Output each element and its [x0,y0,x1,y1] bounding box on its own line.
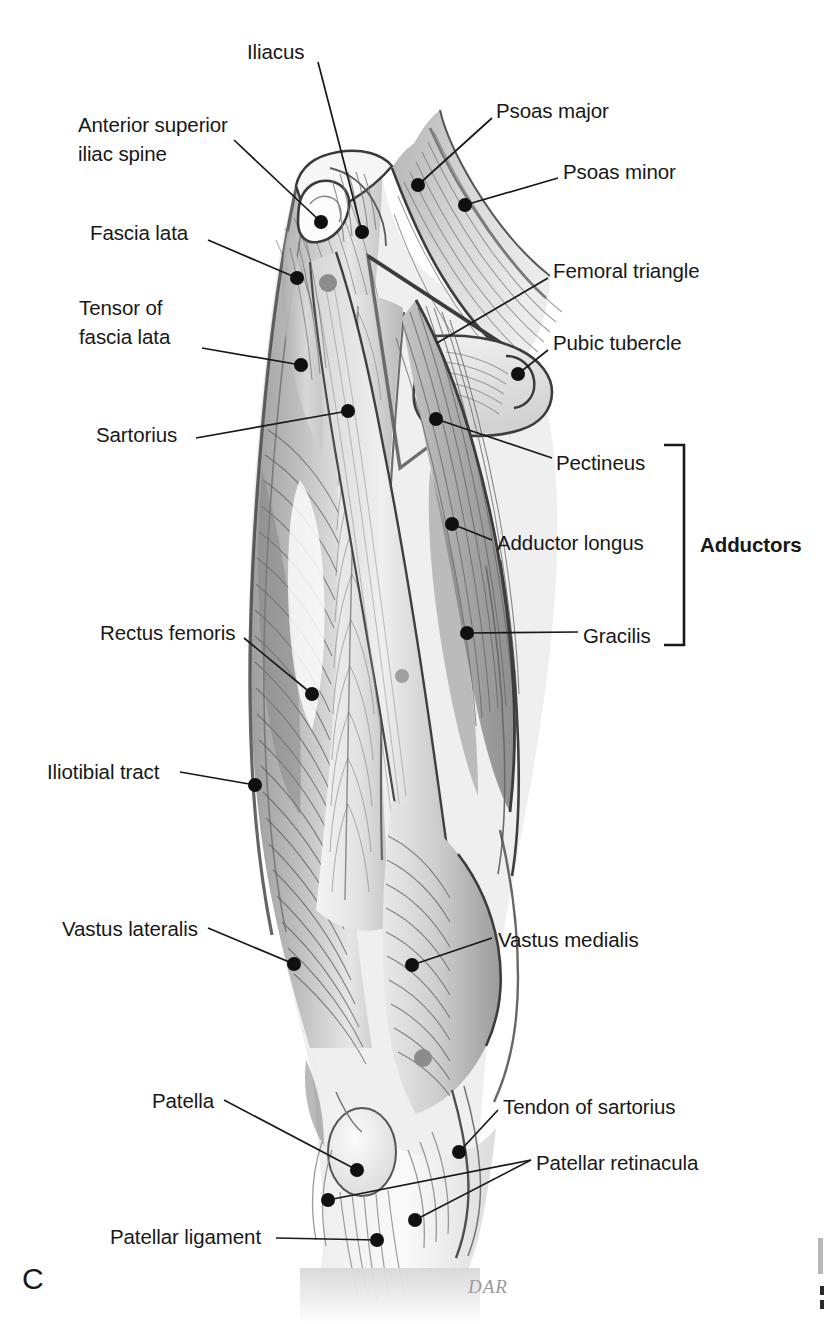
dot-tendon-of-sartorius [452,1145,466,1159]
label-patella: Patella [152,1086,214,1115]
label-tensor-of-fascia-lata: Tensor of fascia lata [79,293,170,351]
label-anterior-superior-iliac-spine: Anterior superior iliac spine [78,110,228,168]
label-iliotibial-tract: Iliotibial tract [47,757,159,786]
dot-pubic-tubercle [511,367,525,381]
label-vastus-lateralis: Vastus lateralis [62,914,198,943]
dot-rectus-femoris [305,687,319,701]
leader-psoas-minor [465,178,558,205]
label-tendon-of-sartorius: Tendon of sartorius [503,1092,675,1121]
dot-adductor-longus [445,517,459,531]
label-psoas-major: Psoas major [496,96,609,125]
dot-patellar-ligament [370,1233,384,1247]
dot-sartorius [341,404,355,418]
dot-psoas-major [411,178,425,192]
anatomical-figure: Iliacus Anterior superior iliac spine Ps… [0,0,830,1324]
dot-psoas-minor [458,198,472,212]
dot-gracilis [460,626,474,640]
page-edge-crop-mark [818,1238,824,1309]
label-pubic-tubercle: Pubic tubercle [553,328,682,357]
label-vastus-medialis: Vastus medialis [498,925,639,954]
adductors-bracket [664,445,684,645]
dot-fascia-lata [290,271,304,285]
dot-patellar-retinacula-b [408,1213,422,1227]
label-psoas-minor: Psoas minor [563,157,676,186]
label-gracilis: Gracilis [583,621,651,650]
dot-vastus-medialis [405,958,419,972]
dot-anterior-superior-iliac-spine [314,215,328,229]
label-fascia-lata: Fascia lata [90,218,188,247]
dot-iliotibial-tract [248,778,262,792]
dot-tensor-of-fascia-lata [294,358,308,372]
dot-patella [350,1163,364,1177]
label-pectineus: Pectineus [556,448,645,477]
label-adductor-longus: Adductor longus [497,528,644,557]
leader-gracilis [467,632,578,633]
dot-pectineus [429,412,443,426]
label-patellar-retinacula: Patellar retinacula [536,1148,698,1177]
artist-signature: DAR [468,1276,508,1298]
thigh-illustration [0,0,830,1324]
label-femoral-triangle: Femoral triangle [553,256,700,285]
panel-letter: C [22,1262,44,1296]
label-adductors-group: Adductors [700,530,802,559]
dot-vastus-lateralis [287,957,301,971]
dot-iliacus [355,225,369,239]
leader-iliotibial-tract [180,772,255,785]
label-iliacus: Iliacus [247,37,304,66]
label-rectus-femoris: Rectus femoris [100,618,235,647]
label-sartorius: Sartorius [96,420,177,449]
label-patellar-ligament: Patellar ligament [110,1222,261,1251]
dot-patellar-retinacula-a [321,1193,335,1207]
